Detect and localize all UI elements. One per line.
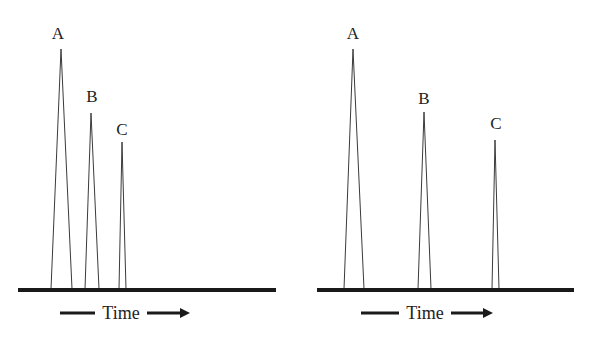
- peak-c: [119, 142, 126, 289]
- time-axis-label: Time: [102, 303, 139, 323]
- peak-label-c: C: [116, 120, 127, 139]
- peak-label-b: B: [418, 89, 429, 108]
- peak-b: [418, 112, 431, 289]
- peak-a: [51, 49, 72, 289]
- peak-b: [85, 113, 99, 289]
- peak-c: [492, 140, 499, 289]
- peak-label-c: C: [490, 114, 501, 133]
- peak-label-a: A: [52, 24, 65, 43]
- time-axis-label: Time: [406, 303, 443, 323]
- chromatogram-comparison: A B C Time A B C Time: [0, 0, 589, 337]
- peak-label-a: A: [347, 24, 360, 43]
- right-chromatogram: A B C Time: [317, 24, 574, 323]
- peak-a: [344, 49, 364, 289]
- peak-label-b: B: [86, 87, 97, 106]
- left-chromatogram: A B C Time: [18, 24, 276, 323]
